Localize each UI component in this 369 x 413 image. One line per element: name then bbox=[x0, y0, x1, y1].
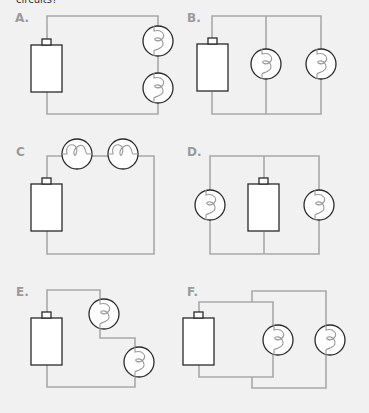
panel-a-label: A. bbox=[15, 11, 29, 25]
panel-a: A. bbox=[15, 11, 173, 114]
bulb-icon bbox=[263, 325, 293, 355]
bulb-icon bbox=[124, 347, 154, 377]
panel-f-label: F. bbox=[187, 285, 198, 299]
battery-icon bbox=[31, 178, 62, 231]
panel-f: F. bbox=[183, 285, 345, 388]
bulb-icon bbox=[143, 73, 173, 103]
battery-icon bbox=[31, 312, 62, 365]
wire bbox=[100, 329, 135, 347]
wire bbox=[47, 16, 158, 39]
wire bbox=[47, 365, 135, 387]
panel-e: E. bbox=[16, 285, 154, 387]
panel-b: B. bbox=[187, 11, 336, 114]
battery-icon bbox=[183, 312, 214, 365]
circuits-canvas: A. B. C bbox=[0, 0, 369, 413]
bulb-icon bbox=[108, 139, 138, 169]
panel-b-label: B. bbox=[187, 11, 201, 25]
bulb-icon bbox=[62, 139, 92, 169]
wire bbox=[47, 156, 62, 178]
wire bbox=[47, 156, 154, 254]
bulb-icon bbox=[89, 299, 119, 329]
bulb-icon bbox=[251, 49, 281, 79]
panel-c-label: C bbox=[16, 145, 25, 159]
wire bbox=[47, 92, 158, 114]
battery-icon bbox=[197, 38, 228, 91]
circuit-diagram-figure: circuits? A. bbox=[0, 0, 369, 413]
bulb-icon bbox=[195, 190, 225, 220]
battery-icon bbox=[31, 39, 62, 92]
panel-d-label: D. bbox=[187, 145, 202, 159]
wire bbox=[252, 355, 326, 388]
bulb-icon bbox=[143, 26, 173, 56]
bulb-icon bbox=[315, 325, 345, 355]
bulb-icon bbox=[304, 190, 334, 220]
panel-c: C bbox=[16, 139, 154, 254]
panel-d: D. bbox=[187, 145, 334, 254]
battery-icon bbox=[248, 178, 279, 231]
panel-e-label: E. bbox=[16, 285, 29, 299]
bulb-icon bbox=[306, 49, 336, 79]
wire bbox=[252, 291, 326, 325]
